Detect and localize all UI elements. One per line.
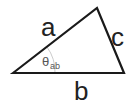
side-c-label: c	[111, 22, 124, 52]
triangle-diagram: a c b θ ab	[0, 0, 139, 105]
side-a-label: a	[41, 12, 56, 42]
triangle-shape	[13, 8, 124, 73]
angle-theta-label: θ	[42, 54, 49, 69]
side-b-label: b	[74, 76, 88, 105]
angle-subscript-label: ab	[50, 61, 60, 71]
